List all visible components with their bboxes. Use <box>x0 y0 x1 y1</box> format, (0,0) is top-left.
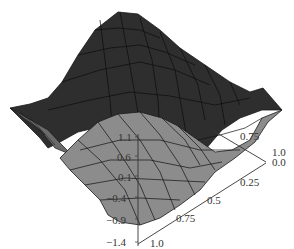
surface-under-face <box>60 110 282 225</box>
z-tick-label: −1.4 <box>106 236 126 248</box>
z-tick-label: −0.4 <box>106 192 126 204</box>
z-tick-label: 1.1 <box>118 131 132 143</box>
right-tick-label: 0.75 <box>240 130 260 142</box>
z-tick-label: 0.1 <box>118 171 132 183</box>
surface-plot: 1.1 0.6 0.1 −0.4 −0.9 −1.4 1.0 0.75 0.5 … <box>0 0 294 249</box>
z-tick-label: 0.6 <box>117 151 131 163</box>
front-tick-label: 0.25 <box>240 176 260 188</box>
front-tick-label: 0.75 <box>176 212 196 224</box>
front-tick-label: 0.5 <box>207 194 221 206</box>
right-tick-label: 1.0 <box>272 146 286 158</box>
z-tick-label: −0.9 <box>106 214 126 226</box>
front-tick-label: 1.0 <box>150 237 164 249</box>
